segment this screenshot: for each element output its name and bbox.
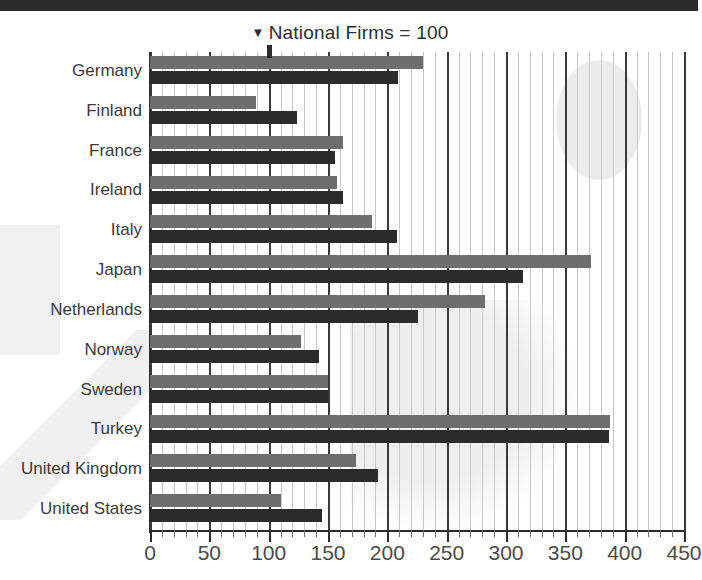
axis-tick-minor bbox=[530, 530, 531, 537]
axis-tick-minor bbox=[197, 530, 198, 537]
bar-dark-series bbox=[150, 469, 378, 482]
axis-tick-minor bbox=[316, 530, 317, 537]
axis-tick-minor bbox=[221, 530, 222, 537]
category-label-united-kingdom: United Kingdom bbox=[2, 459, 150, 479]
bar-row bbox=[150, 132, 684, 172]
bar-dark-series bbox=[150, 71, 398, 84]
bar-row bbox=[150, 371, 684, 411]
bar-light-series bbox=[150, 56, 423, 69]
category-label-sweden: Sweden bbox=[2, 380, 150, 400]
axis-tick-minor bbox=[470, 530, 471, 537]
bar-row bbox=[150, 450, 684, 490]
axis-tick-minor bbox=[553, 530, 554, 537]
value-tick-label: 300 bbox=[488, 541, 523, 565]
plot-area bbox=[150, 52, 684, 530]
value-tick-label: 400 bbox=[607, 541, 642, 565]
axis-tick-minor bbox=[411, 530, 412, 537]
axis-tick-minor bbox=[672, 530, 673, 537]
axis-tick-minor bbox=[375, 530, 376, 537]
value-tick-label: 50 bbox=[198, 541, 221, 565]
bar-light-series bbox=[150, 136, 343, 149]
axis-tick-minor bbox=[281, 530, 282, 537]
top-rule-band bbox=[0, 0, 698, 11]
bar-row bbox=[150, 211, 684, 251]
bar-dark-series bbox=[150, 390, 328, 403]
axis-tick-minor bbox=[399, 530, 400, 537]
axis-tick-minor bbox=[245, 530, 246, 537]
axis-tick-minor bbox=[340, 530, 341, 537]
axis-tick-minor bbox=[601, 530, 602, 537]
axis-tick-minor bbox=[352, 530, 353, 537]
axis-tick-minor bbox=[613, 530, 614, 537]
bar-dark-series bbox=[150, 191, 343, 204]
bar-light-series bbox=[150, 96, 256, 109]
value-tick-label: 250 bbox=[429, 541, 464, 565]
bar-light-series bbox=[150, 335, 301, 348]
value-tick-label: 100 bbox=[251, 541, 286, 565]
axis-tick-minor bbox=[637, 530, 638, 537]
axis-tick-minor bbox=[577, 530, 578, 537]
value-tick-label: 350 bbox=[548, 541, 583, 565]
axis-tick-minor bbox=[494, 530, 495, 537]
axis-tick-minor bbox=[518, 530, 519, 537]
bar-light-series bbox=[150, 215, 372, 228]
bar-light-series bbox=[150, 255, 591, 268]
axis-tick-minor bbox=[435, 530, 436, 537]
bar-row bbox=[150, 291, 684, 331]
bar-dark-series bbox=[150, 310, 418, 323]
bar-dark-series bbox=[150, 350, 319, 363]
bar-dark-series bbox=[150, 270, 523, 283]
axis-tick-minor bbox=[542, 530, 543, 537]
axis-tick-minor bbox=[364, 530, 365, 537]
bar-row bbox=[150, 92, 684, 132]
bar-light-series bbox=[150, 415, 610, 428]
category-label-norway: Norway bbox=[2, 340, 150, 360]
bar-row bbox=[150, 52, 684, 92]
reference-marker-tick bbox=[267, 45, 272, 58]
bar-dark-series bbox=[150, 430, 609, 443]
bar-row bbox=[150, 490, 684, 530]
category-label-france: France bbox=[2, 141, 150, 161]
axis-tick-minor bbox=[459, 530, 460, 537]
category-label-ireland: Ireland bbox=[2, 180, 150, 200]
axis-tick-minor bbox=[292, 530, 293, 537]
value-axis-labels: 050100150200250300350400450 bbox=[0, 541, 698, 577]
bar-row bbox=[150, 331, 684, 371]
bar-light-series bbox=[150, 295, 485, 308]
bar-row bbox=[150, 411, 684, 451]
bar-light-series bbox=[150, 176, 337, 189]
bar-dark-series bbox=[150, 151, 335, 164]
category-label-united-states: United States bbox=[2, 499, 150, 519]
bar-dark-series bbox=[150, 230, 397, 243]
value-tick-label: 200 bbox=[370, 541, 405, 565]
category-label-netherlands: Netherlands bbox=[2, 300, 150, 320]
bar-dark-series bbox=[150, 111, 297, 124]
category-label-japan: Japan bbox=[2, 260, 150, 280]
value-tick-label: 450 bbox=[666, 541, 701, 565]
axis-tick-minor bbox=[482, 530, 483, 537]
axis-tick-minor bbox=[304, 530, 305, 537]
chart-title: ▼National Firms = 100 bbox=[150, 22, 550, 44]
down-triangle-icon: ▼ bbox=[252, 25, 265, 40]
category-label-germany: Germany bbox=[2, 61, 150, 81]
axis-tick-minor bbox=[257, 530, 258, 537]
bar-light-series bbox=[150, 375, 328, 388]
category-label-italy: Italy bbox=[2, 220, 150, 240]
axis-tick-minor bbox=[660, 530, 661, 537]
axis-tick-minor bbox=[423, 530, 424, 537]
chart-title-text: National Firms = 100 bbox=[269, 22, 449, 43]
axis-tick-minor bbox=[589, 530, 590, 537]
value-tick-label: 150 bbox=[310, 541, 345, 565]
axis-tick-minor bbox=[174, 530, 175, 537]
category-label-finland: Finland bbox=[2, 101, 150, 121]
axis-line bbox=[149, 530, 684, 532]
value-tick-label: 0 bbox=[144, 541, 156, 565]
bar-light-series bbox=[150, 454, 356, 467]
bar-row bbox=[150, 251, 684, 291]
category-axis-labels: GermanyFinlandFranceIrelandItalyJapanNet… bbox=[0, 52, 150, 530]
axis-tick-minor bbox=[162, 530, 163, 537]
bar-row bbox=[150, 172, 684, 212]
bar-light-series bbox=[150, 494, 281, 507]
axis-tick-minor bbox=[186, 530, 187, 537]
axis-tick-minor bbox=[648, 530, 649, 537]
